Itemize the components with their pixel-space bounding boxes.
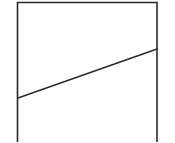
open-frame [18, 3, 158, 143]
diagram-canvas [0, 0, 175, 142]
line-diagram [0, 0, 175, 142]
diagonal-line [18, 49, 157, 98]
